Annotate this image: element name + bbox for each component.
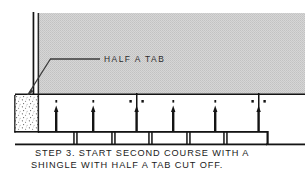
lower-tab-slot-line [148, 131, 150, 144]
vertical-edge-line-outer [33, 12, 35, 94]
lower-tab-slot-line [111, 131, 113, 144]
lower-tab-slot-line [76, 131, 78, 144]
starter-course-band [14, 95, 305, 133]
lower-course-bottom-edge [15, 144, 267, 146]
lower-tab-slot-line [114, 131, 116, 144]
lower-course-top-edge-left [38, 131, 268, 133]
upper-course-fill [38, 13, 305, 95]
figure-container: HALF A TAB [0, 0, 305, 176]
lower-shingle-course [15, 131, 305, 145]
lower-tab-slot-line [151, 131, 153, 144]
nail-shaft [214, 110, 216, 132]
starter-band-fill [15, 95, 305, 132]
caption-line-1: STEP 3. START SECOND COURSE WITH A [35, 148, 249, 158]
nail-shaft [135, 110, 137, 132]
nail-dot [172, 100, 174, 103]
shingle-diagram-svg: HALF A TAB [0, 0, 305, 176]
nail-shaft [92, 110, 94, 132]
lower-course-step-riser [267, 131, 269, 145]
cut-block-right-edge [38, 95, 40, 133]
nail-dot [263, 100, 265, 103]
nail-dot [251, 100, 253, 103]
lower-tab-slot-line [73, 131, 75, 144]
nail-shaft [257, 110, 259, 132]
half-tab-cut-block [14, 95, 39, 133]
caption-line-2: SHINGLE WITH HALF A TAB CUT OFF. [31, 160, 223, 170]
nail-dot [92, 100, 94, 103]
lower-tab-slot-lines [73, 131, 228, 144]
vertical-edge-line-inner [38, 13, 40, 94]
nail-shaft [55, 110, 57, 132]
lower-tab-slot-line [226, 131, 228, 144]
nail-dot [214, 100, 216, 103]
cut-block-stipple-fill [16, 96, 39, 133]
cut-block-bottom-edge [14, 131, 39, 133]
lower-course-bottom-edge-right [266, 144, 305, 146]
half-a-tab-label: HALF A TAB [104, 54, 165, 64]
nail-dot [129, 100, 131, 103]
nail-dot [141, 100, 143, 103]
nail-shaft [172, 110, 174, 132]
lower-tab-slot-line [189, 131, 191, 144]
lower-tab-slot-line [223, 131, 225, 144]
nail-dot [55, 100, 57, 103]
lower-tab-slot-line [186, 131, 188, 144]
